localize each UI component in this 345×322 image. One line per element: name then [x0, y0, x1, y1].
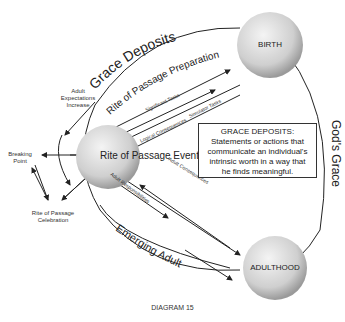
- svg-text:Emerging Adult: Emerging Adult: [114, 222, 184, 270]
- svg-text:God's Grace: God's Grace: [329, 120, 343, 187]
- adult-expectations-label: Adult Expectations Increase: [58, 88, 98, 109]
- diagram-caption: DIAGRAM 15: [0, 304, 345, 311]
- birth-label: BIRTH: [252, 40, 288, 49]
- svg-text:Grace Deposits: Grace Deposits: [86, 28, 178, 92]
- svg-text:Significant Tasks: Significant Tasks: [144, 92, 181, 113]
- grace-deposits-label: Grace Deposits: [86, 28, 178, 92]
- celebration-label: Rite of Passage Celebration: [28, 210, 78, 224]
- rite-label: Rite of Passage Event: [100, 150, 199, 161]
- breaking-point-label: Breaking Point: [6, 151, 34, 165]
- grace-deposits-definition-box: GRACE DEPOSITS: Statements or actions th…: [198, 123, 317, 178]
- adulthood-label: ADULTHOOD: [245, 263, 305, 272]
